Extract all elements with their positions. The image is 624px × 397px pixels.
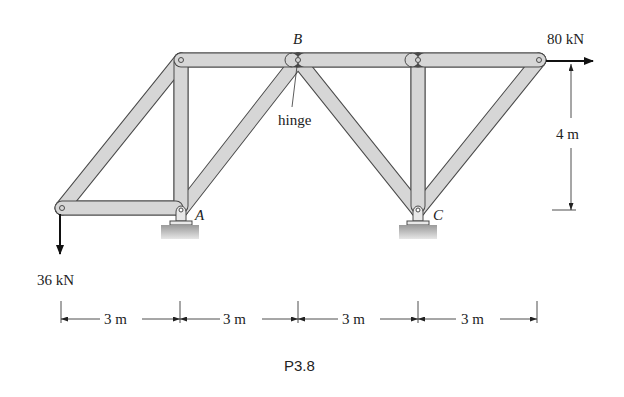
pin-left-bottom — [60, 206, 65, 211]
label-span-4: 3 m — [461, 311, 484, 327]
figure-caption: P3.8 — [284, 357, 315, 374]
pins — [60, 58, 542, 211]
label-node-c: C — [433, 207, 444, 223]
truss-diagram: B A C hinge 80 kN 36 kN 4 m 3 m 3 m 3 m … — [0, 0, 624, 397]
support-c — [399, 206, 437, 239]
label-span-3: 3 m — [342, 311, 365, 327]
pin-top-right — [537, 58, 542, 63]
label-span-1: 3 m — [104, 311, 127, 327]
pin-top-middle — [416, 58, 421, 63]
truss-members — [62, 53, 539, 210]
label-hinge: hinge — [278, 112, 312, 128]
pin-top-left — [179, 58, 184, 63]
pin-hinge-b — [296, 58, 301, 63]
label-node-b: B — [293, 31, 302, 47]
label-node-a: A — [194, 207, 205, 223]
label-load-80kn: 80 kN — [547, 31, 584, 47]
label-span-2: 3 m — [223, 311, 246, 327]
label-load-36kn: 36 kN — [37, 272, 74, 288]
label-height: 4 m — [556, 126, 579, 142]
